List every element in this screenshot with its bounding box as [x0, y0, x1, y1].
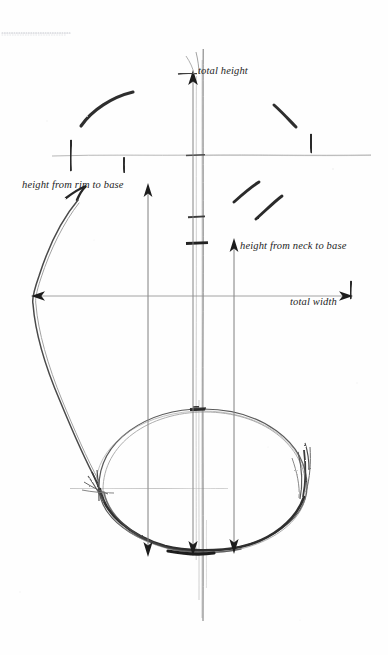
vessel-left-profile [33, 200, 99, 482]
vessel-right-edge-brush [292, 443, 310, 499]
ink-stroke-right-neck-lower [256, 196, 282, 219]
ink-stroke-left-small-tick [124, 158, 125, 172]
label-total-width: total width [290, 297, 337, 308]
vessel-diagram-svg [0, 0, 388, 655]
ink-stroke-left-rim-tick [70, 141, 71, 170]
measurement-height-rim-to-base [144, 183, 153, 549]
measurement-height-neck-to-base [230, 238, 239, 547]
ink-stroke-upper-right-arc [274, 105, 296, 127]
ink-stroke-upper-left-arc [81, 92, 133, 126]
axis-tick-marks [186, 155, 208, 409]
rim-level-guide-line [52, 155, 371, 156]
label-height-from-rim-to-base: height from rim to base [22, 180, 124, 191]
label-total-height: total height [198, 66, 248, 77]
label-height-from-neck-to-base: height from neck to base [240, 241, 346, 252]
vessel-left-junction-scribble [82, 470, 114, 502]
figure-canvas: total height height from rim to base hei… [0, 0, 388, 655]
dotted-rule-top-left [2, 33, 70, 35]
ink-stroke-right-neck-upper [234, 182, 259, 202]
vertical-guide-lines [148, 80, 234, 551]
ink-stroke-right-rim-tick [311, 135, 312, 152]
central-vertical-axis [196, 49, 206, 621]
